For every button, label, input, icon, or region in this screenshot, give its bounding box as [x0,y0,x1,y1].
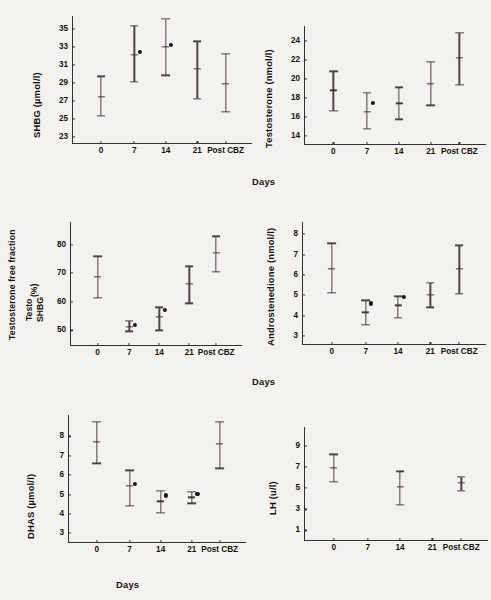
dhas-x-tick-label: 14 [156,546,165,554]
testosterone-mean-marker [395,103,402,104]
lh-error-bar [461,477,462,491]
shbg-error-bar [100,76,101,116]
testosterone-free-fraction-y-tick-mark [70,301,73,302]
androstenedione-y-tick-mark [302,315,305,316]
testosterone-free-fraction-x-tick-label: 14 [155,349,164,357]
dhas-x-tick-label: 21 [187,546,196,554]
lh-y-tick-label: 9 [295,442,304,450]
testosterone-x-tick-mark [398,142,399,145]
dhas-error-cap-bottom [188,503,197,504]
lh-y-tick-label: 3 [295,505,304,513]
androstenedione-y-tick-label: 7 [293,250,302,258]
panel-lh-y-axis-title: LH (u/l) [268,443,277,515]
testosterone-free-fraction-x-tick-mark [97,343,98,346]
shbg-y-tick-mark [72,82,75,83]
androstenedione-x-tick-mark [397,342,398,345]
androstenedione-error-cap-top [426,282,435,283]
panel-androstenedione-y-axis-title: Androstenedione (nmol/l) [266,198,275,346]
panel-androstenedione: Androstenedione (nmol/l) 345678071421Pos… [246,200,491,400]
testosterone-error-bar [333,71,334,111]
dhas-y-tick-label: 8 [59,432,68,440]
androstenedione-data-point [401,295,405,299]
dhas-y-tick-mark [68,494,71,495]
testosterone-error-bar [459,33,460,85]
testosterone-free-fraction-x-tick-mark [129,343,130,346]
dhas-mean-marker [216,443,223,444]
testosterone-free-fraction-error-cap-top [185,266,194,267]
testosterone-error-cap-bottom [329,110,338,111]
dhas-y-tick-label: 6 [59,471,68,479]
androstenedione-x-tick-label: 0 [329,348,334,356]
testosterone-free-fraction-error-cap-bottom [185,303,194,304]
shbg-error-bar [165,19,166,76]
testosterone-error-cap-top [363,92,372,93]
panel-dhas: DHAS (µmol/l) 345678071421Post CBZ Days [0,395,246,600]
testosterone-free-fraction-y-tick-mark [70,244,73,245]
panel-tff-numerator: Testo [24,298,35,320]
dhas-data-point [164,493,168,497]
testosterone-free-fraction-mean-marker [126,326,133,327]
panel-shbg-y-axis-title: SHBG (µmol/l) [32,28,41,138]
dhas-mean-marker [126,485,133,486]
shbg-error-bar [225,54,226,112]
testosterone-x-tick-label: 0 [331,148,336,156]
lh-y-tick-label: 7 [295,463,304,471]
testosterone-error-cap-top [329,71,338,72]
shbg-error-cap-bottom [193,98,202,99]
panel-dhas-plot-area: 345678071421Post CBZ [68,415,232,543]
lh-x-tick-mark [333,538,334,541]
androstenedione-error-cap-top [327,243,336,244]
testosterone-free-fraction-error-cap-bottom [155,330,164,331]
shbg-mean-marker [222,83,229,84]
figure-panel-grid: SHBG (µmol/l) 23252729313335071421Post C… [0,0,491,600]
shbg-x-tick-label: 21 [193,147,202,155]
lh-error-cap-bottom [329,481,338,482]
dhas-mean-marker [188,497,195,498]
lh-x-tick-label: 0 [331,544,336,552]
androstenedione-error-cap-top [455,245,464,246]
dhas-error-cap-bottom [92,463,101,464]
testosterone-x-tick-label: Post CBZ [441,148,478,156]
androstenedione-x-tick-mark [365,342,366,345]
androstenedione-error-cap-bottom [361,324,370,325]
testosterone-free-fraction-error-bar [97,256,98,298]
androstenedione-y-tick-label: 6 [293,271,302,279]
lh-x-tick-mark [399,538,400,541]
androstenedione-error-bar [331,243,332,293]
androstenedione-x-tick-mark [459,342,460,345]
shbg-y-tick-label: 29 [59,79,72,87]
testosterone-mean-marker [363,111,370,112]
dhas-y-tick-mark [68,455,71,456]
shbg-y-tick-label: 31 [59,61,72,69]
panel-androstenedione-x-axis-title: Days [252,376,275,387]
testosterone-free-fraction-y-tick-label: 50 [57,326,70,334]
shbg-y-tick-label: 35 [59,25,72,33]
testosterone-x-tick-mark [459,142,460,145]
dhas-x-tick-label: 0 [94,546,99,554]
lh-error-cap-bottom [457,490,466,491]
shbg-mean-marker [162,46,169,47]
shbg-y-tick-mark [72,118,75,119]
testosterone-free-fraction-data-point [133,323,137,327]
testosterone-y-tick-mark [304,78,307,79]
testosterone-y-axis-line [304,26,305,145]
androstenedione-x-tick-label: 21 [426,348,435,356]
lh-x-tick-mark [432,538,433,541]
dhas-error-cap-bottom [156,512,165,513]
dhas-y-tick-mark [68,533,71,534]
shbg-data-point [169,43,173,47]
testosterone-error-cap-top [427,61,436,62]
dhas-y-axis-line [68,415,69,543]
testosterone-y-tick-mark [304,41,307,42]
testosterone-error-cap-top [395,87,404,88]
shbg-error-cap-top [162,18,171,19]
testosterone-y-tick-label: 18 [291,94,304,102]
testosterone-free-fraction-mean-marker [213,252,220,253]
testosterone-mean-marker [330,90,337,91]
testosterone-y-tick-label: 20 [291,75,304,83]
shbg-error-cap-top [130,25,139,26]
lh-x-tick-mark [367,538,368,541]
shbg-y-tick-label: 27 [59,97,72,105]
shbg-y-tick-label: 33 [59,43,72,51]
dhas-error-cap-top [125,470,134,471]
